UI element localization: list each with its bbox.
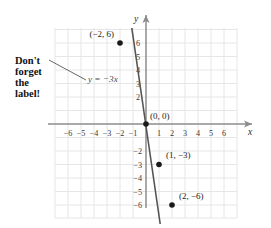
x-tick: −3	[103, 129, 112, 138]
x-tick-labels: −6 −5 −4 −3 −2 −1 1 2 3 4 5 6	[64, 129, 226, 138]
x-tick: −4	[90, 129, 99, 138]
equation-label: y = −3x	[87, 74, 119, 84]
x-tick: 5	[209, 129, 213, 138]
y-tick: −2	[133, 147, 142, 156]
x-tick: 2	[170, 129, 174, 138]
data-point	[117, 40, 123, 46]
annotation-line-3: the	[15, 77, 29, 88]
point-label-1-neg3: (1, −3)	[166, 150, 191, 160]
x-tick: 4	[196, 129, 200, 138]
point-label-2-neg6: (2, −6)	[179, 191, 204, 201]
annotation-line-4: label!	[15, 88, 40, 99]
x-tick: 1	[157, 129, 161, 138]
data-point	[156, 162, 162, 168]
y-tick: 2	[136, 93, 140, 102]
x-tick: −1	[129, 129, 138, 138]
y-tick: −3	[133, 161, 142, 170]
y-tick: −5	[133, 188, 142, 197]
x-tick: 3	[183, 129, 187, 138]
point-label-neg2-6: (−2, 6)	[89, 29, 114, 39]
figure-canvas: y x −6 −5 −4 −3 −2 −1 1 2 3 4 5 6 6 5 4 …	[0, 0, 271, 228]
annotation-line-2: forget	[15, 66, 42, 77]
annotation-callout: Don't forget the label!	[15, 55, 86, 99]
y-tick: −4	[133, 174, 142, 183]
coordinate-plane-figure: y x −6 −5 −4 −3 −2 −1 1 2 3 4 5 6 6 5 4 …	[0, 0, 271, 228]
x-tick: −2	[116, 129, 125, 138]
x-tick: −5	[77, 129, 86, 138]
data-point	[169, 202, 175, 208]
x-axis-label: x	[247, 127, 253, 137]
data-point	[143, 121, 149, 127]
x-tick: −6	[64, 129, 73, 138]
y-axis-label: y	[133, 14, 139, 24]
point-label-origin: (0, 0)	[150, 111, 170, 121]
y-tick: 6	[136, 39, 140, 48]
y-tick: −6	[133, 201, 142, 210]
x-tick: 6	[222, 129, 226, 138]
annotation-line-1: Don't	[15, 55, 41, 66]
